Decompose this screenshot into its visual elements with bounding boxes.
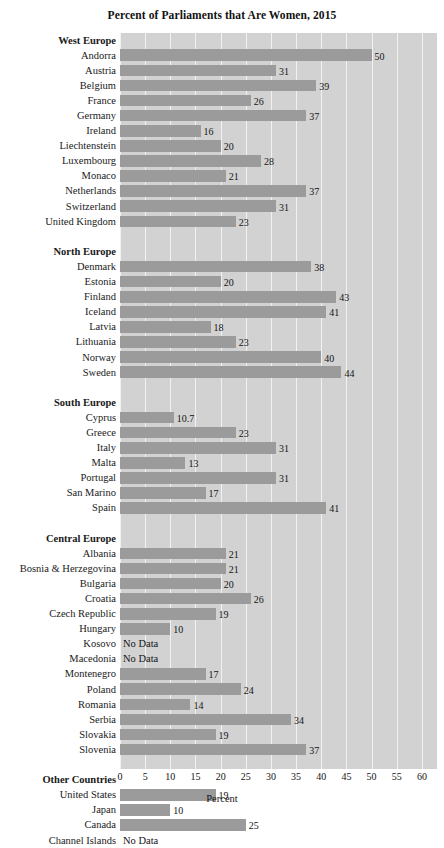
bar[interactable] (120, 714, 291, 726)
bar[interactable] (120, 819, 246, 831)
bar-area: 23 (120, 425, 444, 440)
bar[interactable] (120, 95, 251, 107)
bar[interactable] (120, 306, 326, 318)
country-label: Macedonia (0, 653, 120, 665)
bar-area: 20 (120, 275, 444, 290)
bar-value-label: 26 (251, 594, 264, 605)
bar-row: Netherlands37 (0, 184, 444, 199)
bar[interactable] (120, 502, 326, 514)
bar[interactable] (120, 261, 311, 273)
country-label: Channel Islands (0, 835, 120, 847)
bar-row: Monaco21 (0, 169, 444, 184)
country-label: Bosnia & Herzegovina (0, 563, 120, 575)
bar[interactable] (120, 49, 372, 61)
bar-area: No Data (120, 652, 444, 667)
bar[interactable] (120, 623, 170, 635)
bar[interactable] (120, 683, 241, 695)
group-header-bar-area (120, 244, 444, 259)
bar-value-label: 13 (185, 458, 198, 469)
bar[interactable] (120, 472, 276, 484)
bar-value-label: 20 (221, 578, 234, 589)
bar[interactable] (120, 80, 316, 92)
bar[interactable] (120, 729, 216, 741)
bar[interactable] (120, 366, 341, 378)
bar-area: 13 (120, 456, 444, 471)
x-axis-title: Percent (0, 793, 444, 804)
bar[interactable] (120, 668, 206, 680)
bar-area: 23 (120, 214, 444, 229)
bar[interactable] (120, 125, 201, 137)
bar-row: Czech Republic19 (0, 607, 444, 622)
bar[interactable] (120, 457, 185, 469)
bar-area: 20 (120, 576, 444, 591)
country-label: Greece (0, 427, 120, 439)
bar[interactable] (120, 291, 336, 303)
bar-area: 41 (120, 305, 444, 320)
bar[interactable] (120, 65, 276, 77)
bar-value-label: 25 (246, 820, 259, 831)
bar[interactable] (120, 185, 306, 197)
bar[interactable] (120, 608, 216, 620)
bar[interactable] (120, 487, 206, 499)
bar[interactable] (120, 200, 276, 212)
bar[interactable] (120, 593, 251, 605)
bar[interactable] (120, 140, 221, 152)
country-label: Italy (0, 442, 120, 454)
bar-row: Norway40 (0, 350, 444, 365)
bar[interactable] (120, 427, 236, 439)
bar[interactable] (120, 804, 170, 816)
country-label: Croatia (0, 593, 120, 605)
bar-value-label: 21 (226, 171, 239, 182)
country-label: Romania (0, 699, 120, 711)
bar-value-label: 19 (216, 609, 229, 620)
bar-area: 21 (120, 169, 444, 184)
group-header-label: Other Countries (0, 774, 120, 786)
bar[interactable] (120, 321, 211, 333)
bar-value-label: 28 (261, 156, 274, 167)
bar-row: Iceland41 (0, 305, 444, 320)
group-header-bar-area (120, 531, 444, 546)
bar[interactable] (120, 276, 221, 288)
bar[interactable] (120, 110, 306, 122)
bar[interactable] (120, 216, 236, 228)
bar-value-label: 31 (276, 443, 289, 454)
bar-row: Bosnia & Herzegovina21 (0, 561, 444, 576)
bar-value-label: 31 (276, 65, 289, 76)
bar-row: San Marino17 (0, 486, 444, 501)
bar[interactable] (120, 155, 261, 167)
bar[interactable] (120, 548, 226, 560)
group-header-label: North Europe (0, 246, 120, 258)
bar[interactable] (120, 351, 321, 363)
bar-value-label: 10 (170, 624, 183, 635)
group-spacer (0, 516, 444, 531)
bar[interactable] (120, 744, 306, 756)
bar-row: Belgium39 (0, 78, 444, 93)
bar[interactable] (120, 170, 226, 182)
bar[interactable] (120, 412, 174, 424)
country-label: Hungary (0, 623, 120, 635)
bar-area: 24 (120, 682, 444, 697)
bar-area: 38 (120, 259, 444, 274)
bar[interactable] (120, 442, 276, 454)
bar[interactable] (120, 563, 226, 575)
bar-value-label: 26 (251, 95, 264, 106)
bar-row: Bulgaria20 (0, 576, 444, 591)
bar-value-label: 41 (326, 307, 339, 318)
bar-row: Greece23 (0, 425, 444, 440)
bar-value-label: 21 (226, 548, 239, 559)
bar[interactable] (120, 699, 190, 711)
x-tick-label: 30 (266, 771, 276, 783)
bar-value-label: 23 (236, 337, 249, 348)
x-tick-label: 60 (417, 771, 427, 783)
bar-area: 37 (120, 742, 444, 757)
bar[interactable] (120, 336, 236, 348)
bar-value-label: 37 (306, 186, 319, 197)
group-header-row: North Europe (0, 244, 444, 259)
bar[interactable] (120, 578, 221, 590)
bar-value-label: 10.7 (174, 412, 195, 423)
bar-value-label: 23 (236, 216, 249, 227)
bar-row: Japan10 (0, 803, 444, 818)
country-label: Luxembourg (0, 155, 120, 167)
bar-value-label: 34 (291, 714, 304, 725)
bar-row: Slovakia19 (0, 727, 444, 742)
